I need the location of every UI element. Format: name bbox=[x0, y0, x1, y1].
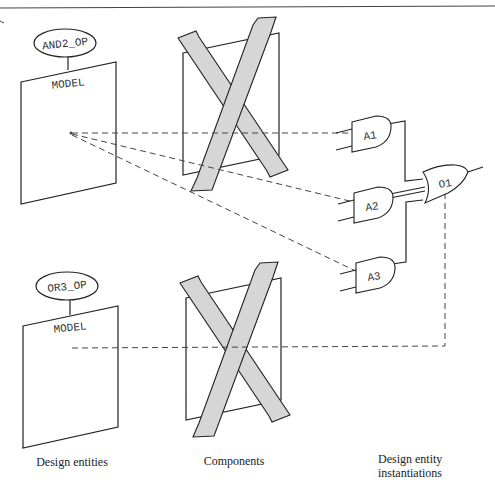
wire-a3-o1 bbox=[392, 200, 423, 264]
gate-label: A1 bbox=[363, 129, 378, 143]
gate-label: A2 bbox=[365, 200, 380, 214]
entity-name: AND2_OP bbox=[41, 36, 89, 53]
wire-a1-o1 bbox=[388, 121, 423, 181]
gate-label: A3 bbox=[367, 270, 382, 284]
gate-network: A1 A2 A3 O1 bbox=[336, 116, 483, 293]
design-entity-and2: AND2_OP MODEL bbox=[21, 29, 116, 204]
gate-label: O1 bbox=[438, 177, 453, 191]
vhdl-binding-diagram: AND2_OP MODEL OR3_OP MODEL bbox=[0, 0, 495, 490]
top-border bbox=[0, 6, 495, 8]
entity-name: OR3_OP bbox=[47, 279, 88, 295]
component-and2-crossed bbox=[178, 17, 288, 191]
input-wire bbox=[336, 129, 352, 133]
caption-design-entities: Design entities bbox=[36, 455, 108, 469]
wire-a2-o1-b bbox=[390, 191, 425, 198]
caption-components: Components bbox=[204, 454, 265, 468]
design-entity-or3: OR3_OP MODEL bbox=[23, 272, 118, 448]
input-wire bbox=[340, 287, 356, 291]
input-wire bbox=[340, 270, 356, 274]
and-gate-a3: A3 bbox=[340, 257, 395, 293]
and-gate-a1: A1 bbox=[336, 116, 391, 152]
corner-mark bbox=[0, 21, 4, 23]
input-wire bbox=[336, 146, 352, 150]
component-or3-crossed bbox=[180, 262, 290, 437]
wire-o1-out bbox=[468, 167, 483, 172]
wire-a2-o1 bbox=[390, 187, 425, 194]
input-wire bbox=[338, 217, 354, 221]
and-gate-a2: A2 bbox=[338, 187, 393, 223]
caption-instantiations-line1: Design entity bbox=[378, 452, 442, 466]
caption-instantiations-line2: instantiations bbox=[378, 466, 442, 480]
